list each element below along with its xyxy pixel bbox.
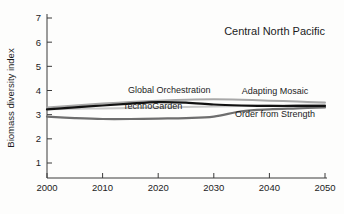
x-tick-label: 2020 <box>148 182 169 193</box>
y-tick-label: 3 <box>36 109 41 120</box>
y-axis-title: Biomass diversity index <box>5 48 16 148</box>
panel-title: Central North Pacific <box>224 25 325 37</box>
series-label-technogarden: TechnoGarden <box>123 101 182 111</box>
series-label-adapting-mosaic: Adapting Mosaic <box>242 86 309 96</box>
biomass-diversity-line-chart: 1234567200020102020203020402050Biomass d… <box>0 0 344 214</box>
y-tick-label: 1 <box>36 157 41 168</box>
y-tick-label: 7 <box>36 12 41 23</box>
x-tick-label: 2030 <box>203 182 224 193</box>
y-tick-label: 4 <box>36 85 41 96</box>
series-label-global-orchestration: Global Orchestration <box>128 85 211 95</box>
x-tick-label: 2000 <box>36 182 57 193</box>
y-tick-label: 6 <box>36 37 41 48</box>
x-tick-label: 2050 <box>314 182 335 193</box>
chart-container: 1234567200020102020203020402050Biomass d… <box>0 0 344 214</box>
x-tick-label: 2040 <box>259 182 280 193</box>
y-tick-label: 2 <box>36 133 41 144</box>
x-tick-label: 2010 <box>92 182 113 193</box>
series-label-order-from-strength: Order from Strength <box>235 109 315 119</box>
y-tick-label: 5 <box>36 61 41 72</box>
